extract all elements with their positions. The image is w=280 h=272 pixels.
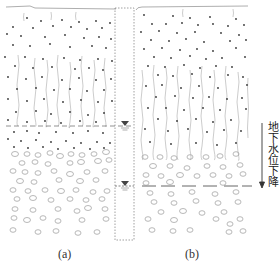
gravel-pebbles (10, 150, 246, 236)
soil-profile-diagram (0, 0, 280, 272)
water-level-marker-a (121, 121, 129, 130)
groundwater-decline-label: 地下水位下降 (265, 121, 279, 187)
down-arrow-icon (260, 123, 265, 188)
caption-a: (a) (58, 247, 71, 262)
fine-soil-dots (4, 14, 248, 150)
water-level-marker-b (121, 181, 129, 190)
caption-b: (b) (185, 247, 199, 262)
panel-a-fissures (17, 12, 106, 128)
